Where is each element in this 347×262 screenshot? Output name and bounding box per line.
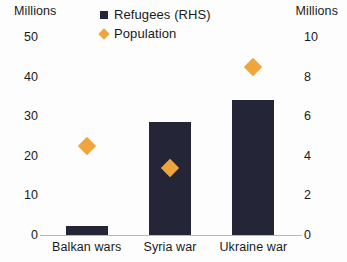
legend-item-label: Refugees (RHS) <box>114 7 211 22</box>
x-axis-line <box>40 235 302 236</box>
plot-area: 010203040500246810 <box>45 37 295 235</box>
y2-axis-tick-label: 0 <box>304 229 334 242</box>
bar <box>149 122 191 235</box>
y2-axis-tick-label: 2 <box>304 189 334 202</box>
bar <box>66 226 108 235</box>
legend-item-refugees: Refugees (RHS) <box>100 5 211 24</box>
y-axis-tick-label: 0 <box>8 229 38 242</box>
y2-axis-tick-label: 6 <box>304 110 334 123</box>
y2-axis-tick-label: 10 <box>304 31 334 44</box>
x-axis-category-label: Ukraine war <box>212 240 295 254</box>
y-axis-tick-label: 50 <box>8 31 38 44</box>
left-axis-unit-label: Millions <box>14 4 56 18</box>
x-axis-category-label: Syria war <box>128 240 211 254</box>
bar <box>232 100 274 235</box>
y2-axis-tick-label: 4 <box>304 150 334 163</box>
y-axis-tick-label: 20 <box>8 150 38 163</box>
square-icon <box>100 11 108 19</box>
x-axis-category-label: Balkan wars <box>45 240 128 254</box>
y-axis-tick-label: 40 <box>8 71 38 84</box>
y-axis-tick-label: 30 <box>8 110 38 123</box>
data-point-marker <box>77 137 95 155</box>
right-axis-unit-label: Millions <box>296 4 338 18</box>
data-point-marker <box>244 58 262 76</box>
chart-container: Millions Millions Refugees (RHS) Populat… <box>0 0 347 262</box>
y-axis-tick-label: 10 <box>8 189 38 202</box>
y2-axis-tick-label: 8 <box>304 71 334 84</box>
